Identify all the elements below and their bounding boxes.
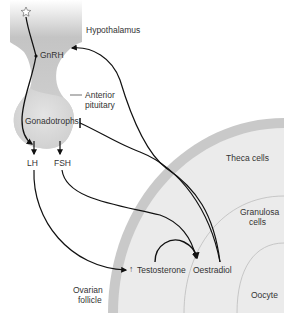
oocyte-label: Oocyte — [251, 290, 278, 300]
anterior-pituitary-label-1: Anterior — [85, 90, 115, 100]
fsh-label: FSH — [54, 158, 71, 168]
anterior-pituitary-label-2: pituitary — [85, 100, 115, 110]
ovarian-follicle-label-2: follicle — [78, 295, 102, 305]
granulosa-cells-label-1: Granulosa — [240, 207, 279, 217]
granulosa-cells-label-2: cells — [249, 217, 266, 227]
testosterone-increase-icon: ↑ — [129, 264, 133, 274]
gnrh-label: GnRH — [40, 50, 64, 60]
lh-label: LH — [27, 158, 38, 168]
oestradiol-label: Oestradiol — [193, 265, 232, 275]
testosterone-label: Testosterone — [137, 265, 186, 275]
ovarian-follicle-label-1: Ovarian — [73, 285, 103, 295]
theca-cells-label: Theca cells — [226, 153, 269, 163]
lh-to-testosterone — [34, 170, 126, 270]
hypothalamus-pituitary — [10, 0, 82, 149]
gonadotrophs-label: Gonadotrophs — [25, 116, 79, 126]
gnrh-terminal — [34, 54, 37, 57]
hypothalamus-label: Hypothalamus — [86, 25, 140, 35]
